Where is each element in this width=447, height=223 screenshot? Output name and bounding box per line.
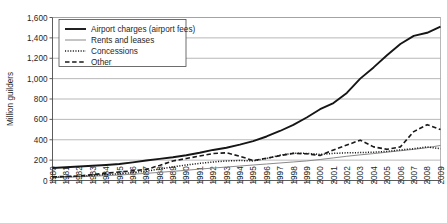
line-chart: 02004006008001,0001,2001,4001,600 198019…	[0, 0, 447, 223]
x-tick-label: 2006	[397, 166, 406, 185]
chart-container: 02004006008001,0001,2001,4001,600 198019…	[0, 0, 447, 223]
x-tick-label: 1996	[263, 166, 272, 185]
x-tick-label: 2000	[316, 166, 325, 185]
legend-label: Rents and leases	[91, 36, 154, 45]
legend-label: Concessions	[91, 47, 138, 56]
legend-label: Airport charges (airport fees)	[91, 25, 195, 34]
y-tick-label: 200	[34, 156, 48, 165]
y-tick-label: 1,600	[27, 14, 48, 23]
chart-legend: Airport charges (airport fees)Rents and …	[59, 20, 195, 68]
x-tick-label: 1986	[129, 166, 138, 185]
y-tick-label: 600	[34, 115, 48, 124]
y-axis-label: Million guilders	[6, 72, 15, 126]
x-tick-label: 2009	[437, 166, 446, 185]
x-tick-label: 2002	[343, 166, 352, 185]
x-tick-label: 1999	[303, 166, 312, 185]
x-tick-label: 2008	[423, 166, 432, 185]
y-axis-ticks: 02004006008001,0001,2001,4001,600	[27, 14, 53, 186]
y-axis-title: Million guilders	[6, 72, 15, 126]
x-tick-label: 1997	[276, 166, 285, 185]
x-tick-label: 2001	[330, 166, 339, 185]
x-tick-label: 1994	[236, 166, 245, 185]
y-tick-label: 1,200	[27, 54, 48, 63]
y-tick-label: 800	[34, 95, 48, 104]
x-tick-label: 1993	[223, 166, 232, 185]
x-tick-label: 2004	[370, 166, 379, 185]
x-tick-label: 2005	[383, 166, 392, 185]
y-tick-label: 1,000	[27, 75, 48, 84]
y-tick-label: 400	[34, 136, 48, 145]
x-tick-label: 1990	[182, 166, 191, 185]
legend-label: Other	[91, 58, 112, 67]
x-tick-label: 1989	[169, 166, 178, 185]
x-tick-label: 1988	[156, 166, 165, 185]
y-tick-label: 1,400	[27, 34, 48, 43]
y-tick-label: 0	[43, 177, 48, 186]
x-tick-label: 2007	[410, 166, 419, 185]
x-tick-label: 2003	[356, 166, 365, 185]
x-tick-label: 1998	[290, 166, 299, 185]
x-tick-label: 1995	[249, 166, 258, 185]
x-tick-label: 1981	[62, 166, 71, 185]
